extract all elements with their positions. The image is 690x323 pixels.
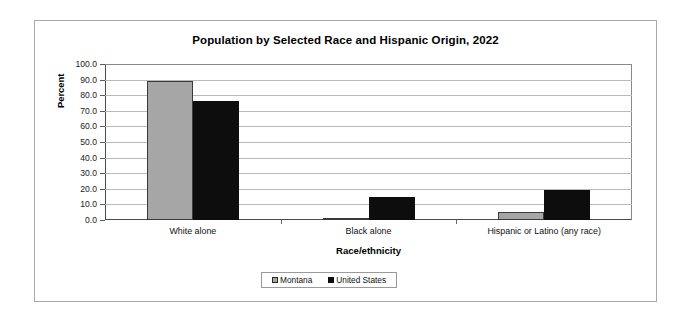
- chart-legend: MontanaUnited States: [261, 272, 397, 288]
- x-axis-category-label: White alone: [105, 226, 281, 236]
- chart-title: Population by Selected Race and Hispanic…: [34, 34, 657, 46]
- y-axis-tick-label: 90.0: [80, 75, 97, 85]
- bar-groups: [105, 64, 632, 220]
- bar-group: [105, 64, 281, 220]
- plot-area-wrapper: 100.090.080.070.060.050.040.030.020.010.…: [105, 64, 632, 220]
- x-axis-labels: White aloneBlack aloneHispanic or Latino…: [105, 226, 632, 236]
- bar: [369, 197, 415, 220]
- y-axis-tick-label: 30.0: [80, 168, 97, 178]
- legend-item: United States: [328, 275, 386, 285]
- bar: [498, 212, 544, 220]
- y-axis-tick-label: 70.0: [80, 106, 97, 116]
- legend-label: Montana: [280, 275, 312, 285]
- bar: [147, 81, 193, 220]
- x-axis-tick-mark: [456, 220, 457, 224]
- y-axis-tick-label: 20.0: [80, 184, 97, 194]
- bar: [193, 101, 239, 220]
- y-axis-tick-label: 50.0: [80, 137, 97, 147]
- bar-group: [281, 64, 457, 220]
- legend-swatch-icon: [272, 277, 278, 283]
- y-axis-tick-label: 0.0: [85, 215, 97, 225]
- x-axis-tick-mark: [281, 220, 282, 224]
- chart-figure: Population by Selected Race and Hispanic…: [0, 0, 690, 323]
- legend-swatch-icon: [328, 277, 334, 283]
- y-axis-tick-label: 80.0: [80, 90, 97, 100]
- x-axis-category-label: Black alone: [281, 226, 457, 236]
- x-axis-category-label: Hispanic or Latino (any race): [456, 226, 632, 236]
- y-axis-tick-label: 10.0: [80, 199, 97, 209]
- y-axis-tick-mark: [100, 220, 105, 221]
- bar-group: [456, 64, 632, 220]
- x-axis-title: Race/ethnicity: [105, 245, 632, 256]
- y-axis-tick-label: 40.0: [80, 153, 97, 163]
- y-axis-title: Percent: [55, 74, 66, 108]
- bar: [544, 190, 590, 220]
- bar: [323, 218, 369, 220]
- y-axis-tick-label: 60.0: [80, 121, 97, 131]
- legend-label: United States: [336, 275, 386, 285]
- legend-item: Montana: [272, 275, 312, 285]
- y-axis-tick-label: 100.0: [75, 59, 97, 69]
